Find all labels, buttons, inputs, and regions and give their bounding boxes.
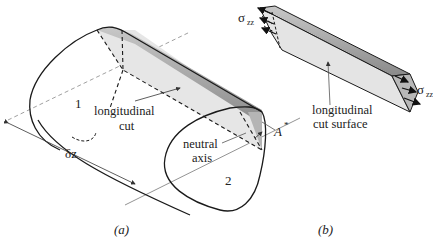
cut-surface-label-line2: cut surface [313, 117, 368, 131]
stress-left-subscript: zz [247, 18, 255, 27]
neutral-axis-label-line2: axis [192, 151, 212, 165]
stress-right-subscript: zz [426, 90, 433, 99]
section-1-label: 1 [75, 96, 82, 111]
section-2-label: 2 [225, 173, 232, 188]
stress-left-label: σ [238, 10, 245, 25]
panel-b-caption: (b) [318, 222, 333, 237]
stress-right-label: σ [417, 82, 424, 97]
area-superscript: * [284, 120, 289, 130]
area-label: A [273, 124, 282, 139]
longitudinal-cut-label-line2: cut [119, 119, 135, 133]
panel-b-drawing [258, 6, 420, 112]
cut-surface-label-line1: longitudinal [312, 103, 373, 117]
length-label: δz [65, 146, 77, 161]
beam-diagram: 1 longitudinal cut neutral axis 2 δz A *… [0, 0, 433, 241]
longitudinal-cut-label-line1: longitudinal [94, 104, 155, 118]
panel-a-caption: (a) [114, 222, 129, 237]
neutral-axis-label-line1: neutral [183, 137, 218, 151]
panel-a-drawing [8, 26, 300, 215]
figure: 1 longitudinal cut neutral axis 2 δz A *… [0, 0, 433, 241]
